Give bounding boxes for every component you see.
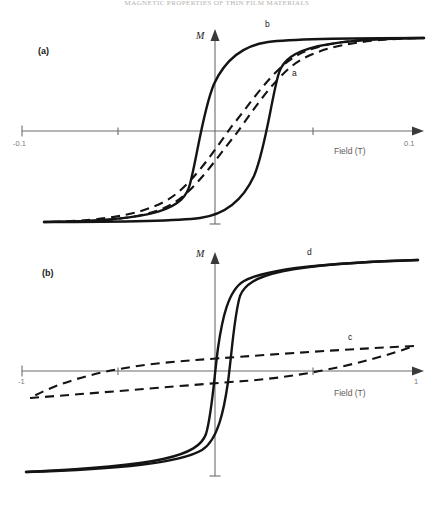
panel-b-plot (0, 238, 434, 510)
panel-b: (b) M -1 1 Field (T) d c (0, 238, 434, 510)
panel-a-curve-a (44, 38, 424, 222)
panel-a-y-axis (210, 29, 221, 224)
panel-a-curve-b (44, 38, 424, 222)
figure-root: MAGNETIC PROPERTIES OF THIN FILM MATERIA… (0, 0, 434, 510)
panel-a-x-axis (22, 126, 424, 137)
panel-b-x-axis (22, 366, 424, 377)
panel-a-plot (0, 8, 434, 238)
panel-a: (a) M -0.1 0.1 Field (T) b a (0, 8, 434, 238)
panel-b-curve-c (30, 346, 414, 398)
panel-b-curve-d (26, 260, 418, 472)
running-header: MAGNETIC PROPERTIES OF THIN FILM MATERIA… (0, 0, 434, 7)
